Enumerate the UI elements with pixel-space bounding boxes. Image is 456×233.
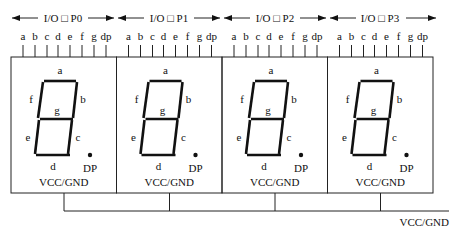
pin-label: c <box>256 30 261 42</box>
pin-label: g <box>197 30 203 42</box>
pin-label: a <box>232 30 237 42</box>
common-label: VCC/GND <box>355 176 405 188</box>
digit-box <box>11 57 117 193</box>
segment-e <box>141 120 145 154</box>
pin-label: d <box>372 30 378 42</box>
pin-label: f <box>80 30 84 42</box>
segment-label-c: c <box>287 131 292 143</box>
common-label: VCC/GND <box>39 176 89 188</box>
segment-e <box>352 120 356 154</box>
digit-module-1: abcdefgdpabcdefgDPVCC/GND <box>117 30 223 211</box>
pin-label: dp <box>101 30 113 42</box>
port-label: I/O □ P2 <box>256 12 294 24</box>
port-header-p0: I/O □ P0 <box>12 12 114 24</box>
segment-label-b: b <box>80 93 86 105</box>
segment-label-g: g <box>160 104 166 116</box>
dp-dot-icon <box>404 153 408 157</box>
segment-label-e: e <box>342 131 347 143</box>
pin-label: e <box>384 30 389 42</box>
pin-label: d <box>161 30 167 42</box>
segment-label-c: c <box>76 131 81 143</box>
segment-label-dp: DP <box>294 162 308 174</box>
segment-label-g: g <box>265 104 271 116</box>
bus-label: VCC/GND <box>399 216 449 228</box>
pin-label: dp <box>417 30 429 42</box>
segment-label-f: f <box>346 93 350 105</box>
port-label: I/O □ P3 <box>361 12 400 24</box>
segment-c <box>279 120 283 154</box>
dp-dot-icon <box>193 153 197 157</box>
segment-label-f: f <box>240 93 244 105</box>
common-label: VCC/GND <box>250 176 300 188</box>
port-header-p2: I/O □ P2 <box>224 12 326 24</box>
segment-label-d: d <box>50 160 56 172</box>
seven-segment-diagram: I/O □ P0 I/O □ P1 I/O □ P2 I/O □ P3 abcd… <box>0 0 456 233</box>
dp-dot-icon <box>88 153 92 157</box>
port-label: I/O □ P0 <box>44 12 83 24</box>
segment-label-g: g <box>54 104 60 116</box>
segment-label-b: b <box>291 93 297 105</box>
pin-label: c <box>150 30 155 42</box>
pin-label: e <box>68 30 73 42</box>
pin-label: b <box>349 30 355 42</box>
segment-label-dp: DP <box>188 162 202 174</box>
pin-label: g <box>91 30 97 42</box>
segment-label-e: e <box>26 131 31 143</box>
port-header-p1: I/O □ P1 <box>118 12 220 24</box>
digit-box <box>328 57 434 193</box>
digit-modules: abcdefgdpabcdefgDPVCC/GNDabcdefgdpabcdef… <box>11 30 433 211</box>
segment-b <box>73 82 77 118</box>
segment-label-b: b <box>397 93 403 105</box>
segment-f <box>249 82 254 118</box>
segment-c <box>68 120 72 154</box>
segment-label-c: c <box>392 131 397 143</box>
segment-f <box>38 82 43 118</box>
segment-label-e: e <box>237 131 242 143</box>
segment-b <box>284 82 288 118</box>
digit-module-2: abcdefgdpabcdefgDPVCC/GND <box>222 30 328 211</box>
segment-b <box>179 82 183 118</box>
pin-label: a <box>126 30 131 42</box>
pin-label: d <box>266 30 272 42</box>
digit-box <box>222 57 328 193</box>
segment-label-e: e <box>131 131 136 143</box>
pin-label: c <box>361 30 366 42</box>
dp-dot-icon <box>299 153 303 157</box>
pin-label: c <box>45 30 50 42</box>
segment-e <box>35 120 39 154</box>
digit-box <box>117 57 223 193</box>
pin-label: g <box>302 30 308 42</box>
digit-module-3: abcdefgdpabcdefgDPVCC/GND <box>328 30 434 211</box>
segment-label-b: b <box>186 93 192 105</box>
digit-module-0: abcdefgdpabcdefgDPVCC/GND <box>11 30 117 211</box>
segment-f <box>355 82 360 118</box>
segment-c <box>385 120 389 154</box>
segment-c <box>174 120 178 154</box>
segment-label-g: g <box>371 104 377 116</box>
port-header-p3: I/O □ P3 <box>330 12 436 24</box>
pin-label: g <box>408 30 414 42</box>
pin-label: dp <box>312 30 324 42</box>
pin-label: b <box>32 30 38 42</box>
pin-label: b <box>138 30 144 42</box>
pin-label: f <box>186 30 190 42</box>
segment-f <box>144 82 149 118</box>
segment-e <box>246 120 250 154</box>
segment-label-f: f <box>135 93 139 105</box>
segment-label-a: a <box>269 64 274 76</box>
segment-label-dp: DP <box>399 162 413 174</box>
pin-label: a <box>337 30 342 42</box>
segment-label-a: a <box>163 64 168 76</box>
pin-label: f <box>397 30 401 42</box>
segment-label-a: a <box>374 64 379 76</box>
pin-label: e <box>173 30 178 42</box>
pin-label: dp <box>206 30 218 42</box>
port-label: I/O □ P1 <box>150 12 188 24</box>
segment-b <box>390 82 394 118</box>
pin-label: e <box>279 30 284 42</box>
pin-label: a <box>21 30 26 42</box>
pin-label: b <box>243 30 249 42</box>
segment-label-d: d <box>367 160 373 172</box>
segment-label-f: f <box>29 93 33 105</box>
pin-label: f <box>291 30 295 42</box>
